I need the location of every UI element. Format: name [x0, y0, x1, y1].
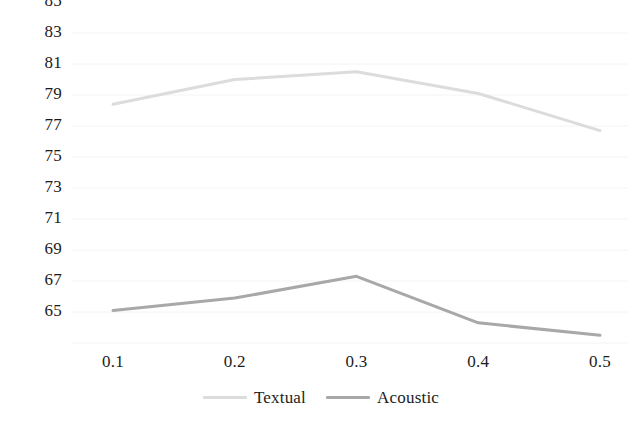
- y-tick-label: 65: [0, 302, 62, 319]
- y-axis: 8583817977757371696765: [0, 0, 62, 343]
- x-tick-label: 0.5: [589, 352, 611, 371]
- legend-label: Textual: [254, 388, 306, 407]
- legend-item-acoustic[interactable]: Acoustic: [326, 388, 439, 407]
- gridlines: [72, 33, 628, 343]
- y-tick-label: 69: [0, 240, 62, 257]
- y-tick-label: 85: [0, 0, 62, 9]
- y-tick-label: 77: [0, 116, 62, 133]
- legend-line-swatch-icon: [326, 396, 370, 399]
- legend-item-textual[interactable]: Textual: [203, 388, 306, 407]
- series-line-textual: [113, 72, 600, 131]
- y-tick-label: 71: [0, 209, 62, 226]
- legend-label: Acoustic: [377, 388, 439, 407]
- y-tick-label: 79: [0, 85, 62, 102]
- series-lines: [113, 72, 600, 336]
- y-tick-label: 73: [0, 178, 62, 195]
- x-tick-label: 0.1: [102, 352, 124, 371]
- x-tick-label: 0.2: [224, 352, 246, 371]
- chart-legend: TextualAcoustic: [0, 388, 642, 407]
- series-line-acoustic: [113, 276, 600, 335]
- plot-area: [72, 33, 628, 343]
- y-tick-label: 75: [0, 147, 62, 164]
- y-tick-label: 81: [0, 54, 62, 71]
- x-tick-label: 0.3: [346, 352, 368, 371]
- y-tick-label: 67: [0, 271, 62, 288]
- line-chart: 8583817977757371696765 0.10.20.30.40.5 T…: [0, 0, 642, 434]
- legend-line-swatch-icon: [203, 396, 247, 399]
- x-tick-label: 0.4: [467, 352, 489, 371]
- y-tick-label: 83: [0, 23, 62, 40]
- x-axis: 0.10.20.30.40.5: [72, 352, 628, 378]
- series-canvas: [72, 33, 628, 343]
